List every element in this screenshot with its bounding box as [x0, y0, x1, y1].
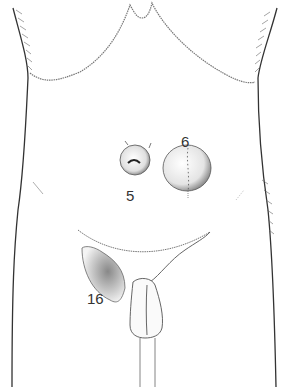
costal-margin: [30, 3, 255, 83]
defect-5-drawing: [120, 141, 151, 175]
illustration-canvas: 5 6 16: [0, 0, 290, 387]
label-6: 6: [181, 133, 189, 150]
defect-6-drawing: [163, 145, 211, 198]
groin-drawing: [130, 232, 210, 387]
torso-drawing: [0, 0, 290, 387]
label-16: 16: [87, 290, 104, 307]
label-5: 5: [126, 187, 134, 204]
